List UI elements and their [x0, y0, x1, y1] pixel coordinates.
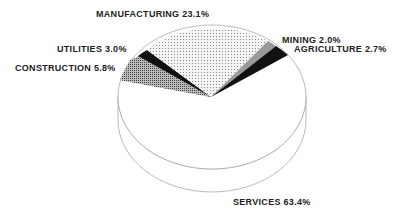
label-services: SERVICES 63.4% [233, 197, 311, 207]
label-construction: CONSTRUCTION 5.8% [15, 63, 116, 73]
label-agriculture: AGRICULTURE 2.7% [294, 44, 387, 54]
label-manufacturing: MANUFACTURING 23.1% [96, 9, 209, 19]
label-utilities: UTILITIES 3.0% [57, 44, 127, 54]
pie-chart [0, 0, 397, 215]
